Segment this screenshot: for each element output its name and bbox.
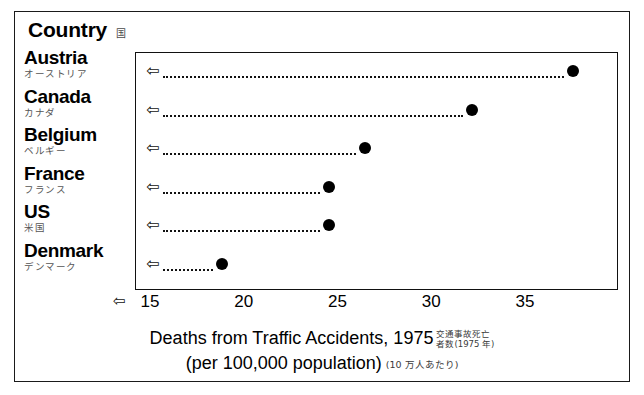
data-point-marker: [323, 219, 335, 231]
axis-tick-label: 15: [130, 292, 170, 312]
row-arrow-icon: ⇦: [146, 177, 159, 197]
data-row: ⇦: [136, 138, 617, 158]
country-name: France: [24, 164, 136, 184]
country-label-us: US米国: [24, 202, 136, 233]
caption-jp-1a: 交通事故死亡: [436, 329, 494, 339]
data-row: ⇦: [136, 61, 617, 81]
data-row: ⇦: [136, 100, 617, 120]
leader-line: [163, 267, 213, 271]
data-point-marker: [216, 258, 228, 270]
row-arrow-icon: ⇦: [146, 215, 159, 235]
country-label-denmark: Denmarkデンマーク: [24, 241, 136, 272]
data-row: ⇦: [136, 254, 617, 274]
country-label-canada: Canadaカナダ: [24, 87, 136, 118]
plot-frame: ⇦⇦⇦⇦⇦⇦: [135, 52, 618, 290]
data-point-marker: [567, 65, 579, 77]
leader-line: [163, 190, 320, 194]
row-arrow-icon: ⇦: [146, 138, 159, 158]
leader-line: [163, 74, 564, 78]
country-label-belgium: Belgiumベルギー: [24, 125, 136, 156]
chart-header: Country 国: [28, 18, 126, 42]
country-name: Denmark: [24, 241, 136, 261]
country-name-japanese: カナダ: [24, 107, 136, 118]
chart-caption: Deaths from Traffic Accidents, 1975交通事故死…: [14, 326, 630, 377]
data-point-marker: [323, 181, 335, 193]
country-name: US: [24, 202, 136, 222]
country-name-japanese: デンマーク: [24, 261, 136, 272]
caption-line-1-text: Deaths from Traffic Accidents, 1975: [150, 328, 434, 348]
row-arrow-icon: ⇦: [146, 100, 159, 120]
data-row: ⇦: [136, 177, 617, 197]
row-arrow-icon: ⇦: [146, 61, 159, 81]
axis-tick-label: 25: [318, 292, 358, 312]
figure-root: Country 国 AustriaオーストリアCanadaカナダBelgiumベ…: [0, 0, 644, 395]
country-name-japanese: フランス: [24, 184, 136, 195]
data-point-marker: [466, 104, 478, 116]
country-label-austria: Austriaオーストリア: [24, 48, 136, 79]
caption-line-2-japanese: (10 万人あたり): [386, 359, 459, 370]
country-name-japanese: 米国: [24, 222, 136, 233]
data-point-marker: [359, 142, 371, 154]
axis-arrow-icon: ⇦: [113, 292, 126, 310]
leader-line: [163, 151, 356, 155]
caption-line-1-japanese: 交通事故死亡者数(1975 年): [436, 329, 494, 349]
data-row: ⇦: [136, 215, 617, 235]
country-label-france: Franceフランス: [24, 164, 136, 195]
axis-tick-label: 30: [411, 292, 451, 312]
country-name-japanese: ベルギー: [24, 145, 136, 156]
axis-tick-label: 20: [224, 292, 264, 312]
page-title: Country: [28, 18, 107, 42]
leader-line: [163, 113, 463, 117]
country-name: Austria: [24, 48, 136, 68]
caption-jp-1b: 者数(1975 年): [436, 339, 494, 349]
page-title-japanese: 国: [116, 25, 126, 40]
axis-tick-label: 35: [505, 292, 545, 312]
leader-line: [163, 228, 320, 232]
country-name-japanese: オーストリア: [24, 68, 136, 79]
row-arrow-icon: ⇦: [146, 254, 159, 274]
country-label-column: AustriaオーストリアCanadaカナダBelgiumベルギーFranceフ…: [24, 52, 132, 290]
country-name: Belgium: [24, 125, 136, 145]
caption-line-2-text: (per 100,000 population): [186, 353, 382, 373]
caption-line-1: Deaths from Traffic Accidents, 1975交通事故死…: [14, 326, 630, 351]
caption-line-2: (per 100,000 population)(10 万人あたり): [14, 351, 630, 377]
country-name: Canada: [24, 87, 136, 107]
plot-area: ⇦⇦⇦⇦⇦⇦: [136, 53, 617, 289]
